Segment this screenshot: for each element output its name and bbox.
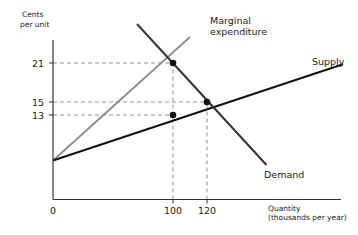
monopsony-wage-point-dot bbox=[170, 60, 177, 67]
x-tick-label: 100 bbox=[164, 205, 182, 216]
x-tick-label: 120 bbox=[198, 205, 216, 216]
supply-label: Supply bbox=[312, 56, 345, 67]
marginal-expenditure-curve bbox=[53, 37, 190, 161]
x-origin-label: 0 bbox=[50, 205, 56, 216]
chart: 211513100120 Cents per unit Quantity (th… bbox=[0, 0, 358, 235]
supply-curve bbox=[53, 64, 343, 160]
competitive-equilibrium-dot bbox=[204, 99, 211, 106]
supply-at-monopsony-quantity-dot bbox=[170, 112, 177, 119]
y-tick-label: 13 bbox=[32, 110, 44, 121]
x-axis-title: Quantity bbox=[268, 204, 301, 213]
y-axis-title: Cents bbox=[22, 10, 44, 19]
marginal-expenditure-label-line2: expenditure bbox=[210, 26, 267, 37]
x-axis-subtitle: (thousands per year) bbox=[268, 213, 347, 222]
y-tick-label: 15 bbox=[32, 97, 44, 108]
y-tick-label: 21 bbox=[32, 58, 44, 69]
demand-curve bbox=[137, 24, 267, 165]
marginal-expenditure-label: Marginal bbox=[210, 15, 251, 26]
curves bbox=[53, 24, 343, 165]
y-axis-subtitle: per unit bbox=[20, 20, 49, 29]
guide-lines bbox=[53, 63, 207, 200]
demand-label: Demand bbox=[264, 169, 304, 180]
